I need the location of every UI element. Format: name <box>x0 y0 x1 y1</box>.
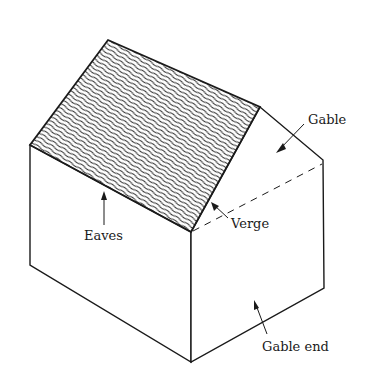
eaves-label: Eaves <box>84 228 123 243</box>
verge-label: Verge <box>230 216 269 231</box>
house-diagram: Gable Eaves Verge Gable end <box>0 0 373 391</box>
gable-end-label: Gable end <box>262 339 329 354</box>
gable-label: Gable <box>308 112 347 127</box>
